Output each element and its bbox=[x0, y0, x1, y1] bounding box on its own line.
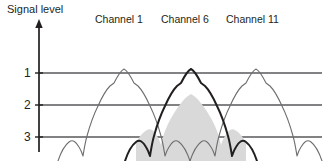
y-axis-tick-label-2: 2 bbox=[24, 99, 31, 111]
channel-label-channel-1: Channel 1 bbox=[95, 14, 143, 25]
channel-label-channel-6: Channel 6 bbox=[161, 14, 209, 25]
channel-6-shaded-region bbox=[136, 94, 246, 161]
signal-level-chart: Signal level Channel 1 Channel 6 Channel… bbox=[0, 0, 332, 161]
y-axis-tick-label-1: 1 bbox=[24, 67, 31, 79]
channel-label-channel-11: Channel 11 bbox=[226, 14, 279, 25]
y-axis bbox=[35, 19, 43, 152]
y-axis-title: Signal level bbox=[7, 4, 63, 15]
y-axis-tick-label-3: 3 bbox=[24, 131, 31, 143]
y-axis-arrowhead bbox=[35, 19, 42, 28]
